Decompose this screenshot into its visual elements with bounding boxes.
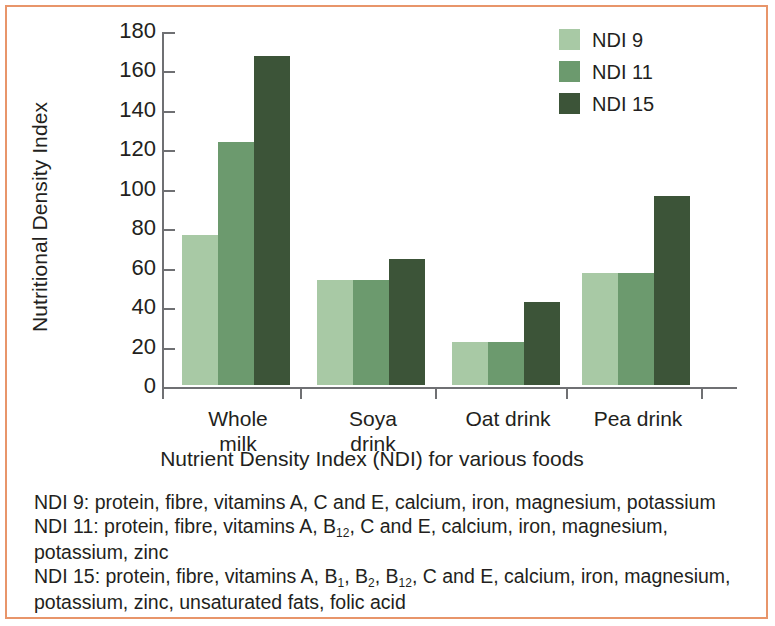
x-axis-tick-mark (435, 388, 437, 399)
legend-swatch-icon (559, 93, 580, 114)
y-axis-tick-label: 140 (119, 99, 156, 121)
y-axis-tick-mark (164, 190, 175, 192)
x-axis-title: Nutrient Density Index (NDI) for various… (7, 447, 737, 471)
footnote-ndi15-sub-b12: 12 (399, 576, 412, 590)
bar (488, 342, 524, 385)
y-axis-tick-label: 80 (132, 217, 156, 239)
y-axis-tick: 140 (164, 111, 175, 113)
bar (218, 142, 254, 385)
y-axis-tick: 180 (164, 32, 175, 34)
y-axis-tick-label: 100 (119, 178, 156, 200)
y-axis-tick-label: 40 (132, 296, 156, 318)
legend-label: NDI 15 (592, 94, 654, 114)
y-axis-tick-label: 120 (119, 138, 156, 160)
y-axis-tick-label: 180 (119, 20, 156, 42)
footnote-ndi15-text-b: , B (344, 565, 368, 587)
x-axis-category-label-line: Soya (295, 406, 451, 431)
x-axis-tick-mark (566, 388, 568, 399)
bar (582, 273, 618, 385)
chart-legend: NDI 9NDI 11NDI 15 (559, 29, 654, 114)
y-axis-tick: 20 (164, 348, 175, 350)
legend-label: NDI 11 (592, 62, 653, 82)
bar (524, 302, 560, 385)
y-axis-tick-label: 20 (132, 336, 156, 358)
y-axis-tick-label: 60 (132, 257, 156, 279)
y-axis-title: Nutritional Density Index (28, 67, 52, 367)
legend-item: NDI 11 (559, 61, 654, 82)
x-axis-category-label-line: Pea drink (560, 406, 716, 431)
bar (654, 196, 690, 385)
y-axis-tick: 0 (164, 387, 175, 389)
footnote-line-ndi11: NDI 11: protein, fibre, vitamins A, B12,… (34, 515, 754, 565)
legend-item: NDI 15 (559, 93, 654, 114)
legend-label: NDI 9 (592, 30, 643, 50)
y-axis-tick-mark (164, 229, 175, 231)
y-axis-tick-mark (164, 387, 175, 389)
bar (182, 235, 218, 385)
x-axis-line (162, 387, 737, 389)
y-axis-tick-mark (164, 269, 175, 271)
y-axis-tick-mark (164, 348, 175, 350)
bar (618, 273, 654, 385)
y-axis-tick: 80 (164, 229, 175, 231)
x-axis-tick-mark (300, 388, 302, 399)
footnote-ndi15-sub-b2: 2 (368, 576, 375, 590)
bar (353, 280, 389, 385)
footnote-block: NDI 9: protein, fibre, vitamins A, C and… (34, 491, 754, 615)
y-axis-tick: 100 (164, 190, 175, 192)
bar (389, 259, 425, 385)
x-axis-tick-mark (162, 388, 164, 399)
x-axis-tick-mark (701, 388, 703, 399)
footnote-line-ndi15: NDI 15: protein, fibre, vitamins A, B1, … (34, 565, 754, 615)
y-axis-tick-mark (164, 150, 175, 152)
y-axis-tick-label: 160 (119, 59, 156, 81)
footnote-ndi11-sub-b12: 12 (336, 526, 349, 540)
footnote-ndi15-text-a: NDI 15: protein, fibre, vitamins A, B (34, 565, 337, 587)
footnote-line-ndi9: NDI 9: protein, fibre, vitamins A, C and… (34, 491, 754, 515)
footnote-ndi15-sub-b1: 1 (337, 576, 344, 590)
footnote-ndi11-text-a: NDI 11: protein, fibre, vitamins A, B (34, 515, 336, 537)
y-axis-tick-label: 0 (144, 375, 156, 397)
bar (254, 56, 290, 385)
legend-item: NDI 9 (559, 29, 654, 50)
footnote-ndi9-text: NDI 9: protein, fibre, vitamins A, C and… (34, 491, 716, 513)
y-axis-line (162, 32, 164, 387)
y-axis-tick: 60 (164, 269, 175, 271)
bar (452, 342, 488, 385)
y-axis-tick: 160 (164, 71, 175, 73)
x-axis-category-label-line: Whole (160, 406, 316, 431)
legend-swatch-icon (559, 29, 580, 50)
y-axis-tick-mark (164, 111, 175, 113)
x-axis-category-label: Pea drink (560, 406, 716, 431)
bar-chart: Nutritional Density Index 02040608010012… (7, 7, 770, 477)
bar-group (317, 30, 429, 385)
footnote-ndi15-text-c: , B (375, 565, 399, 587)
figure-frame: Nutritional Density Index 02040608010012… (5, 5, 768, 619)
y-axis-tick: 40 (164, 308, 175, 310)
y-axis-tick-mark (164, 71, 175, 73)
bar-group (182, 30, 294, 385)
legend-swatch-icon (559, 61, 580, 82)
y-axis-tick: 120 (164, 150, 175, 152)
y-axis-tick-mark (164, 308, 175, 310)
bar-group (452, 30, 564, 385)
y-axis-tick-mark (164, 32, 175, 34)
bar (317, 280, 353, 385)
